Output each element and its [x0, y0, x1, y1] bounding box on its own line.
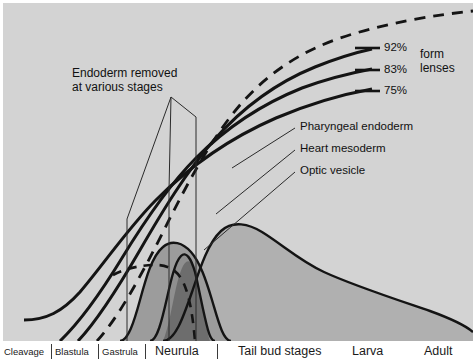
percent-label-83: 83%	[384, 64, 407, 76]
stage-label-blastula: Blastula	[55, 347, 89, 357]
stage-separator-2	[98, 344, 99, 359]
stage-label-tail-bud-stages: Tail bud stages	[238, 345, 321, 358]
curve-label-optic-vesicle: Optic vesicle	[300, 164, 365, 178]
stage-label-cleavage: Cleavage	[4, 347, 44, 357]
stage-separator-3	[145, 344, 146, 359]
stage-label-neurula: Neurula	[155, 345, 199, 358]
curve-label-heart-mesoderm: Heart mesoderm	[300, 142, 386, 156]
form-lenses-label: form lenses	[420, 47, 455, 75]
stage-separator-1	[51, 344, 52, 359]
stage-separator-4	[217, 344, 218, 359]
curve-label-pharyngeal-endoderm: Pharyngeal endoderm	[300, 120, 413, 134]
stage-label-adult: Adult	[424, 345, 453, 358]
endoderm-removed-annotation: Endoderm removed at various stages	[72, 66, 177, 94]
figure-container: Endoderm removed at various stages Phary…	[0, 0, 476, 364]
percent-label-92: 92%	[384, 42, 407, 54]
percent-label-75: 75%	[384, 85, 407, 97]
plot-area: Endoderm removed at various stages Phary…	[0, 0, 476, 341]
stage-axis: Cleavage Blastula Gastrula Neurula Tail …	[0, 341, 476, 364]
stage-label-larva: Larva	[352, 345, 383, 358]
stage-label-gastrula: Gastrula	[102, 347, 138, 357]
